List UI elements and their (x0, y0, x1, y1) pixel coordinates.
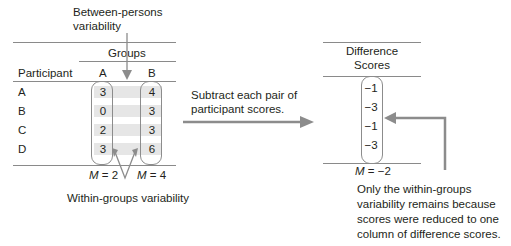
within-groups-arrows-icon (112, 148, 138, 178)
subtract-arrow-icon (183, 116, 314, 128)
between-persons-arrow-icon (122, 33, 132, 80)
within-groups-remains-arrow-icon (384, 112, 445, 170)
arrows-layer (0, 0, 511, 246)
